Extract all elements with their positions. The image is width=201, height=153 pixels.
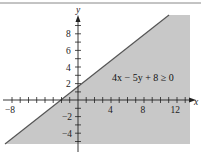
x-tick-label: −8 <box>5 105 15 115</box>
y-tick-label: 2 <box>66 79 71 89</box>
y-tick-label: −4 <box>62 129 72 139</box>
y-tick-label: 4 <box>66 63 71 73</box>
y-tick-label: 8 <box>66 29 71 39</box>
y-axis-arrow-icon <box>76 15 81 22</box>
y-tick-label: −2 <box>62 112 72 122</box>
x-tick-label: 4 <box>108 105 113 115</box>
y-tick-label: 6 <box>66 46 71 56</box>
inequality-graph: y x −8 4 8 12 8 6 4 2 −2 −4 4x − 5y + 8 … <box>0 0 201 153</box>
x-tick-label: 12 <box>171 105 181 115</box>
inequality-label: 4x − 5y + 8 ≥ 0 <box>112 72 174 83</box>
y-axis-label: y <box>75 5 81 15</box>
x-tick-label: 8 <box>141 105 146 115</box>
x-axis-label: x <box>193 97 199 107</box>
